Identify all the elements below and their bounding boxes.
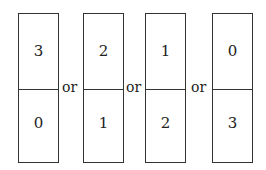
- domino-3-bottom-value: 2: [146, 114, 185, 132]
- domino-1-top-value: 3: [19, 42, 58, 60]
- domino-3-divider: [146, 89, 185, 90]
- domino-4-top-value: 0: [213, 42, 252, 60]
- domino-2-divider: [84, 89, 123, 90]
- domino-3: 1 2: [145, 13, 186, 163]
- domino-1: 3 0: [18, 13, 59, 163]
- domino-2-bottom-value: 1: [84, 114, 123, 132]
- domino-1-bottom-value: 0: [19, 114, 58, 132]
- domino-4: 0 3: [212, 13, 253, 163]
- domino-2: 2 1: [83, 13, 124, 163]
- separator-or-2: or: [126, 79, 141, 95]
- separator-or-1: or: [62, 79, 77, 95]
- domino-4-divider: [213, 89, 252, 90]
- domino-3-top-value: 1: [146, 42, 185, 60]
- separator-or-3: or: [191, 79, 206, 95]
- domino-1-divider: [19, 89, 58, 90]
- domino-4-bottom-value: 3: [213, 114, 252, 132]
- domino-2-top-value: 2: [84, 42, 123, 60]
